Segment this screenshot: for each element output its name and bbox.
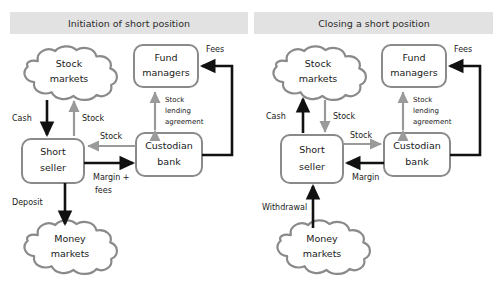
node-fund-managers-right[interactable]: Fund managers [382,45,446,87]
edge-label-margin: Margin [352,173,379,182]
node-label-line2: managers [390,67,438,78]
edge-label-deposit: Deposit [12,198,43,207]
edge-label-sla-line1: Stock [413,96,433,104]
node-label-line1: Custodian [393,140,441,151]
node-label-line2: markets [303,248,342,259]
node-label-line2: bank [157,156,181,167]
edge-label-withdrawal: Withdrawal [262,203,307,212]
node-label-line1: Short [299,144,325,155]
panel-title-left: Initiation of short position [68,18,190,29]
edge-label-stock-in: Stock [100,132,123,141]
edge-label-stock: Stock [333,112,356,121]
edge-label-cash: Cash [12,114,32,123]
node-custodian-bank-left[interactable]: Custodian bank [136,133,202,176]
edge-label-cash: Cash [266,112,286,121]
node-label-line2: managers [142,67,190,78]
node-label-line2: bank [405,156,429,167]
panel-title-right: Closing a short position [318,18,430,29]
edge-label-sla-line1: Stock [165,96,185,104]
node-label-line2: markets [51,248,90,259]
node-custodian-bank-right[interactable]: Custodian bank [384,133,450,176]
node-label-line1: Stock [305,58,332,69]
node-fund-managers-left[interactable]: Fund managers [134,45,198,87]
node-label-line2: markets [50,73,89,84]
edge-label-stock-out: Stock [350,131,373,140]
node-label-line1: Stock [56,58,83,69]
node-label-line1: Short [40,146,66,157]
node-label-line2: seller [299,161,325,172]
edge-label-sla-line2: lending [165,107,191,115]
edge-label-stock: Stock [82,114,105,123]
node-short-seller-left[interactable]: Short seller [22,139,84,183]
edge-label-sla-line3: agreement [413,118,452,126]
node-label-line1: Fund [402,52,425,63]
node-label-line2: markets [299,73,338,84]
edge-label-sla-line3: agreement [165,118,204,126]
edge-label-fees: Fees [206,45,224,54]
node-label-line1: Custodian [145,140,193,151]
diagram-canvas: Initiation of short position Stock marke… [0,0,503,285]
node-label-line1: Fund [154,52,177,63]
node-short-seller-right[interactable]: Short seller [281,135,343,183]
edge-label-fees: Fees [454,45,472,54]
edge-label-margin-line2: fees [95,186,112,195]
node-label-line2: seller [40,162,66,173]
node-label-line1: Money [306,233,338,244]
edge-label-margin-line1: Margin + [93,173,130,182]
edge-label-sla-line2: lending [413,107,439,115]
node-label-line1: Money [54,233,86,244]
